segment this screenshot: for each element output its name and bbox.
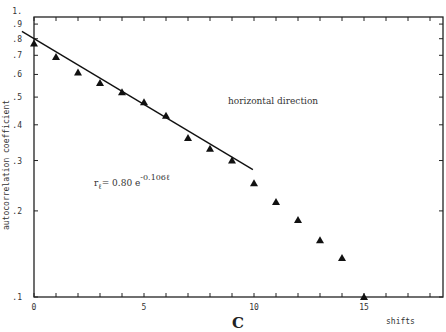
triangle-marker	[272, 198, 280, 205]
x-tick-label: 5	[142, 303, 147, 312]
y-tick-label: .3	[12, 157, 22, 166]
y-tick-label: .7	[12, 51, 22, 60]
plot-frame	[34, 17, 443, 297]
triangle-marker	[184, 134, 192, 141]
triangle-marker	[140, 98, 148, 105]
autocorrelation-chart: 1..9.8.7.6.5.4.3.2.1 051015 autocorrelat…	[0, 0, 446, 332]
y-tick-label: .2	[12, 207, 22, 216]
y-tick-label: .1	[12, 293, 22, 302]
y-tick-label: .6	[12, 70, 22, 79]
triangle-marker	[316, 236, 324, 243]
triangle-marker	[74, 68, 82, 75]
y-tick-label: .4	[12, 121, 22, 130]
x-axis-ticks: 051015	[32, 17, 430, 312]
triangle-marker	[338, 254, 346, 261]
fit-equation: rℓ= 0.80 e-0.106ℓ	[94, 173, 170, 191]
x-tick-label: 0	[32, 303, 37, 312]
y-tick-label: .9	[12, 20, 22, 29]
y-tick-label: .5	[12, 93, 22, 102]
y-axis-label: autocorrelation coefficient	[2, 100, 11, 230]
triangle-marker	[294, 216, 302, 223]
panel-label: C	[232, 314, 244, 332]
regression-fit-line	[22, 31, 253, 169]
x-axis-label: shifts	[386, 317, 415, 326]
x-tick-label: 10	[249, 303, 259, 312]
x-tick-label: 15	[359, 303, 369, 312]
triangle-marker	[250, 179, 258, 186]
series-annotation: horizontal direction	[228, 96, 318, 106]
y-tick-label: .8	[12, 35, 22, 44]
y-tick-label: 1.	[12, 7, 22, 16]
triangle-marker	[228, 157, 236, 164]
data-points	[30, 39, 368, 300]
